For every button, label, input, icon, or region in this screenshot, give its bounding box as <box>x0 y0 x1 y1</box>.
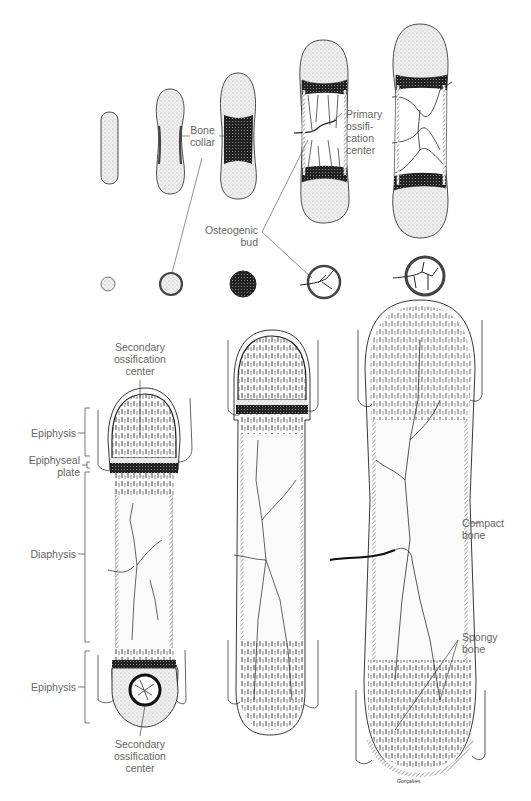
label-line: Compact <box>462 517 504 529</box>
bone-development-diagram: Bone collar Primary ossifi- cation cente… <box>0 0 531 801</box>
label-line: cation <box>346 132 382 144</box>
label-line: center <box>346 144 382 156</box>
label-line: center <box>110 762 170 774</box>
epiphyseal-plate-label: Epiphyseal plate <box>14 454 80 478</box>
label-line: Bone <box>190 124 215 136</box>
label-line: Secondary <box>110 341 170 353</box>
cross-section-1 <box>101 277 115 291</box>
epiphysis-top-label: Epiphysis <box>20 427 76 439</box>
label-line: center <box>110 365 170 377</box>
long-bone-1 <box>98 388 192 727</box>
long-bone-2 <box>228 330 318 735</box>
label-line: Primary <box>346 108 382 120</box>
label-line: Osteogenic <box>200 224 258 236</box>
label-line: collar <box>190 136 215 148</box>
osteogenic-bud-label: Osteogenic bud <box>200 224 258 248</box>
label-line: Secondary <box>110 738 170 750</box>
label-line: Epiphyseal <box>14 454 80 466</box>
primary-ossification-center-label: Primary ossifi- cation center <box>346 108 382 156</box>
label-line: bone <box>462 529 504 541</box>
stage-5-marrow-cavity <box>392 24 452 238</box>
bone-collar-label: Bone collar <box>190 124 215 148</box>
compact-bone-label: Compact bone <box>462 517 504 541</box>
diaphysis-label: Diaphysis <box>20 548 76 560</box>
artist-signature: Gonçalves <box>397 778 421 784</box>
stage-1-cartilage-model <box>101 112 118 184</box>
diagram-artwork <box>0 0 531 801</box>
label-line: bone <box>462 643 498 655</box>
label-line: ossifi- <box>346 120 382 132</box>
label-line: bud <box>200 236 258 248</box>
secondary-ossification-center-top-label: Secondary ossification center <box>110 341 170 377</box>
cross-section-2 <box>160 273 182 295</box>
label-line: ossification <box>110 750 170 762</box>
spongy-bone-label: Spongy bone <box>462 631 498 655</box>
label-line: plate <box>14 466 80 478</box>
label-line: Spongy <box>462 631 498 643</box>
cross-section-3 <box>230 271 256 297</box>
epiphysis-bottom-label: Epiphysis <box>20 681 76 693</box>
stage-2-bone-collar <box>156 89 184 194</box>
label-line: ossification <box>110 353 170 365</box>
secondary-ossification-center-bottom-label: Secondary ossification center <box>110 738 170 774</box>
cross-section-4 <box>300 266 340 298</box>
cross-section-5 <box>393 257 444 295</box>
stage-4-primary-ossification <box>294 40 349 223</box>
